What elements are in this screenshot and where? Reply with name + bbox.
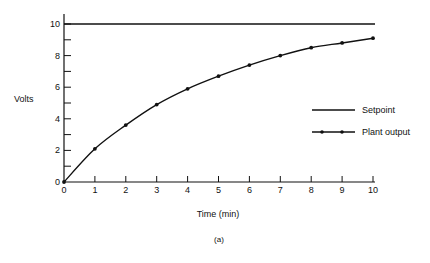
data-point-marker <box>93 147 97 151</box>
x-tick-label: 9 <box>340 185 345 195</box>
legend-marker-icon <box>320 130 324 134</box>
legend-marker-icon <box>340 130 344 134</box>
data-point-marker <box>217 74 221 78</box>
legend-setpoint-label: Setpoint <box>362 105 396 115</box>
data-point-marker <box>186 87 190 91</box>
x-tick-label: 2 <box>123 185 128 195</box>
legend: Setpoint Plant output <box>312 105 411 137</box>
x-tick-label: 1 <box>92 185 97 195</box>
data-point-marker <box>371 36 375 40</box>
axes: 0123456789100246810 <box>50 14 378 195</box>
y-axis-label: Volts <box>14 94 34 104</box>
chart: 0123456789100246810 Volts Time (min) (a)… <box>0 0 430 263</box>
data-point-marker <box>340 41 344 45</box>
data-point-marker <box>62 180 66 184</box>
x-tick-label: 5 <box>216 185 221 195</box>
data-point-marker <box>248 63 252 67</box>
figure-caption: (a) <box>214 235 224 244</box>
y-tick-label: 0 <box>55 177 60 187</box>
y-tick-label: 2 <box>55 145 60 155</box>
x-tick-label: 3 <box>154 185 159 195</box>
x-tick-label: 4 <box>185 185 190 195</box>
data-point-marker <box>155 103 159 107</box>
x-tick-label: 0 <box>61 185 66 195</box>
y-tick-label: 4 <box>55 114 60 124</box>
x-axis-label: Time (min) <box>197 209 240 219</box>
x-tick-label: 8 <box>309 185 314 195</box>
y-tick-label: 8 <box>55 51 60 61</box>
y-tick-label: 6 <box>55 82 60 92</box>
data-point-marker <box>278 54 282 58</box>
data-point-marker <box>124 123 128 127</box>
x-tick-label: 6 <box>247 185 252 195</box>
x-tick-label: 10 <box>368 185 378 195</box>
legend-plant-label: Plant output <box>362 127 411 137</box>
x-tick-label: 7 <box>278 185 283 195</box>
y-tick-label: 10 <box>50 19 60 29</box>
data-point-marker <box>309 46 313 50</box>
series <box>62 24 375 184</box>
